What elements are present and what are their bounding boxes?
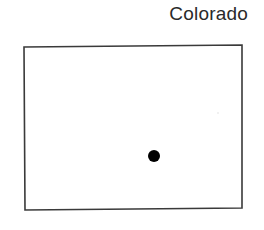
location-dot-marker bbox=[148, 150, 160, 162]
marker-layer bbox=[148, 150, 160, 162]
state-outline bbox=[24, 45, 242, 210]
noise-speck bbox=[217, 112, 218, 113]
state-map bbox=[0, 0, 264, 230]
